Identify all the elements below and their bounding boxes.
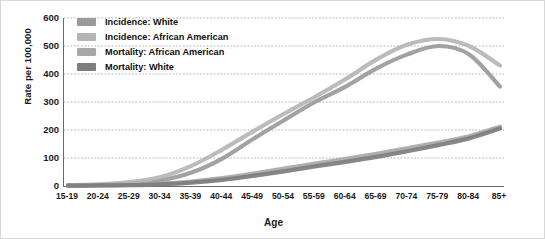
x-axis-tick-label: 85+: [476, 191, 522, 201]
series-line: [68, 129, 500, 186]
y-axis-tick-label: 200: [23, 125, 59, 135]
x-axis-title: Age: [1, 217, 545, 228]
legend-item-label: Mortality: White: [105, 62, 174, 72]
y-axis-tick-label: 500: [23, 41, 59, 51]
legend-swatch-icon: [77, 63, 96, 71]
y-axis-tick-labels: 6005004003002001000: [19, 1, 59, 239]
chart-legend: Incidence: WhiteIncidence: African Ameri…: [77, 15, 307, 75]
legend-item-label: Incidence: White: [105, 17, 178, 27]
legend-swatch-icon: [77, 33, 96, 41]
legend-item: Incidence: White: [77, 15, 307, 29]
legend-swatch-icon: [77, 18, 96, 26]
y-axis-tick-label: 400: [23, 69, 59, 79]
legend-item: Mortality: African American: [77, 45, 307, 59]
x-axis-tick-labels: 15-1920-2425-2930-3435-3940-4445-4950-54…: [63, 191, 503, 207]
y-axis-tick-label: 100: [23, 153, 59, 163]
legend-swatch-icon: [77, 48, 96, 56]
series-line: [68, 127, 500, 186]
chart-page: Rate per 100,000 6005004003002001000 15-…: [0, 0, 545, 239]
legend-item: Incidence: African American: [77, 30, 307, 44]
legend-item-label: Mortality: African American: [105, 47, 224, 57]
legend-item: Mortality: White: [77, 60, 307, 74]
y-axis-tick-label: 600: [23, 13, 59, 23]
legend-item-label: Incidence: African American: [105, 32, 228, 42]
y-axis-tick-label: 0: [23, 181, 59, 191]
y-axis-tick-label: 300: [23, 97, 59, 107]
